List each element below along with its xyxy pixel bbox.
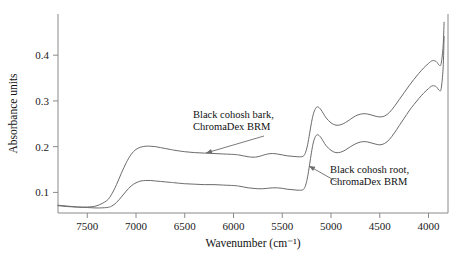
x-tick-label: 7500 [76, 220, 99, 232]
spectrum-chart: 0.10.20.30.47500700065006000550050004500… [0, 0, 474, 262]
y-axis-title: Absorbance units [7, 73, 19, 154]
annotation-label-bark-label: ChromaDex BRM [193, 121, 271, 132]
annotation-label-root-label: Black cohosh root, [330, 164, 409, 175]
annotation-leader-bark-label [206, 136, 264, 153]
axis-titles-group: Wavenumber (cm⁻¹)Absorbance units [7, 73, 301, 250]
y-tick-label: 0.3 [35, 95, 49, 107]
figure-container: 0.10.20.30.47500700065006000550050004500… [0, 0, 474, 262]
x-tick-label: 4500 [369, 220, 392, 232]
annotation-arrowhead-root-label [309, 166, 315, 171]
tick-marks-group [53, 55, 429, 218]
annotation-arrowhead-bark-label [206, 149, 212, 154]
y-tick-label: 0.4 [35, 49, 49, 61]
x-tick-label: 5500 [271, 220, 294, 232]
annotations-group: Black cohosh bark,ChromaDex BRMBlack coh… [193, 109, 409, 187]
annotation-label-bark-label: Black cohosh bark, [193, 109, 274, 120]
y-tick-label: 0.1 [35, 186, 49, 198]
annotation-label-root-label: ChromaDex BRM [330, 176, 408, 187]
x-axis-title: Wavenumber (cm⁻¹) [205, 237, 300, 250]
x-tick-label: 7000 [125, 220, 148, 232]
x-tick-label: 6000 [223, 220, 246, 232]
x-tick-label: 5000 [320, 220, 343, 232]
y-tick-label: 0.2 [35, 141, 49, 153]
x-tick-label: 6500 [174, 220, 197, 232]
tick-labels-group: 0.10.20.30.47500700065006000550050004500… [35, 49, 440, 232]
x-tick-label: 4000 [418, 220, 441, 232]
